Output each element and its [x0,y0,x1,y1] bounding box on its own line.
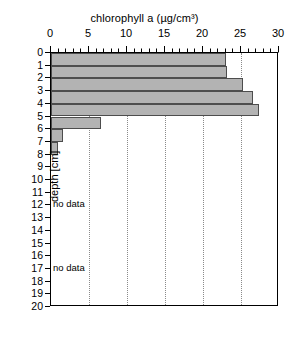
bar [51,66,227,79]
y-axis-title: depth [cm] [48,151,60,202]
y-tick-label: 8 [37,149,43,159]
y-tick-label: 19 [31,288,43,298]
x-tick-label: 25 [225,27,255,39]
y-tick-label: 10 [31,174,43,184]
y-tick-label: 5 [37,111,43,121]
y-tick-label: 12 [31,199,43,209]
x-tick-label: 30 [263,27,289,39]
y-tick [45,268,50,269]
y-tick-label: 0 [37,47,43,57]
bar [51,129,63,142]
x-tick-label: 10 [111,27,141,39]
y-tick [45,217,50,218]
y-tick [45,90,50,91]
y-tick-label: 18 [31,276,43,286]
y-tick [45,281,50,282]
y-tick [45,103,50,104]
y-tick [45,243,50,244]
bar [51,78,243,91]
y-tick [45,65,50,66]
y-tick [45,52,50,53]
no-data-label: no data [53,263,85,273]
y-tick-label: 16 [31,250,43,260]
y-tick-label: 20 [31,301,43,311]
y-tick [45,77,50,78]
x-tick-label: 0 [35,27,65,39]
y-tick-label: 1 [37,60,43,70]
bar [51,53,226,66]
y-tick-label: 6 [37,123,43,133]
y-tick [45,116,50,117]
y-tick [45,204,50,205]
y-tick-label: 17 [31,263,43,273]
y-tick-label: 3 [37,85,43,95]
y-tick-label: 11 [32,187,43,197]
chlorophyll-depth-profile-chart: chlorophyll a (µg/cm³) 051015202530 0123… [0,0,289,351]
x-tick-label: 5 [73,27,103,39]
y-tick-label: 15 [31,238,43,248]
y-tick-label: 13 [31,212,43,222]
y-tick-label: 4 [37,98,43,108]
bar [51,91,253,104]
x-tick-label: 20 [187,27,217,39]
y-tick-label: 7 [37,136,43,146]
y-tick [45,293,50,294]
y-tick [45,306,50,307]
x-tick-label: 15 [149,27,179,39]
chart-title: chlorophyll a (µg/cm³) [0,12,289,24]
bar [51,117,101,130]
y-tick-label: 14 [31,225,43,235]
y-tick [45,128,50,129]
y-tick [45,141,50,142]
bar [51,104,259,117]
y-tick-label: 2 [37,72,43,82]
y-tick [45,255,50,256]
y-tick [45,230,50,231]
y-tick-label: 9 [37,161,43,171]
x-tick-major [278,46,279,52]
